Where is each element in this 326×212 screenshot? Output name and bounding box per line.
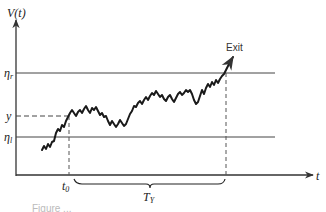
start-level-label: y <box>6 110 11 122</box>
duration-brace <box>74 179 225 188</box>
duration-subscript: Y <box>150 196 154 205</box>
sample-path <box>42 57 233 150</box>
start-time-label: t0 <box>62 180 69 194</box>
lower-threshold-subscript: l <box>10 136 12 145</box>
upper-threshold-label: ηr <box>4 67 13 81</box>
x-axis-label: t <box>316 170 319 182</box>
upper-threshold-subscript: r <box>10 72 13 81</box>
start-time-subscript: 0 <box>65 185 69 194</box>
duration-symbol: T <box>143 190 150 204</box>
figure-caption: Figure ... <box>32 203 71 212</box>
lower-threshold-label: ηl <box>4 131 12 145</box>
y-axis-label: V(t) <box>7 7 26 19</box>
exit-label: Exit <box>226 43 243 53</box>
duration-label: TY <box>143 191 154 205</box>
exit-time-diagram <box>0 0 326 212</box>
